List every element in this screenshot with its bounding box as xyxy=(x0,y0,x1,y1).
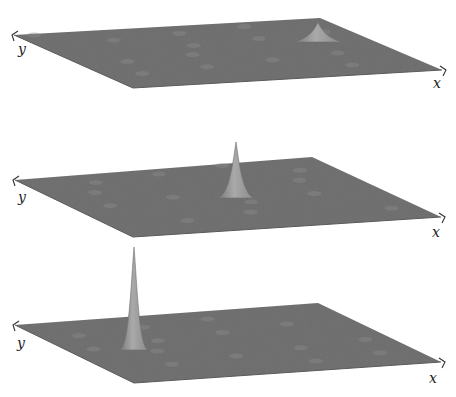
y-axis-label-plot3: y xyxy=(17,336,25,350)
surface-plot-2 xyxy=(13,142,445,237)
x-axis-arrow-icon xyxy=(439,213,445,223)
x-axis-label-plot1: x xyxy=(433,76,441,90)
surface-plane xyxy=(15,303,441,383)
x-axis-label-plot3: x xyxy=(429,371,437,385)
y-axis-label-plot1: y xyxy=(18,42,26,56)
surface-plots-figure xyxy=(0,0,456,397)
surface-plot-3 xyxy=(13,247,445,383)
x-axis-arrow-icon xyxy=(439,358,445,368)
surface-plot-1 xyxy=(12,18,446,88)
x-axis-label-plot2: x xyxy=(432,225,440,239)
y-axis-label-plot2: y xyxy=(18,190,26,204)
surface-plane xyxy=(14,18,442,88)
